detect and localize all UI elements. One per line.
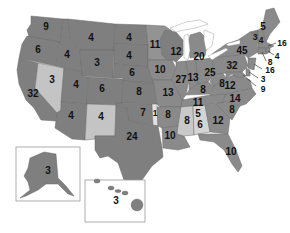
label-tx: 24 xyxy=(126,131,138,142)
label-ga: 12 xyxy=(212,115,224,126)
label-md: 9 xyxy=(261,84,266,94)
label-mn: 11 xyxy=(150,39,161,50)
leader-nj xyxy=(254,64,262,69)
label-in: 13 xyxy=(187,72,199,83)
label-mo: 13 xyxy=(162,87,174,98)
us-electoral-map: 9 6 32 3 4 4 3 4 4 6 4 4 4 6 8 7 1 24 11… xyxy=(0,0,290,233)
state-new-jersey[interactable] xyxy=(248,58,256,70)
label-wa: 9 xyxy=(43,21,49,32)
label-wv: 8 xyxy=(219,78,225,89)
label-me: 5 xyxy=(260,21,266,32)
label-ks: 8 xyxy=(136,86,142,97)
label-ca: 32 xyxy=(27,88,39,99)
label-wi: 12 xyxy=(170,46,182,57)
label-ia: 10 xyxy=(154,64,166,75)
leader-de xyxy=(249,72,258,78)
label-vt: 3 xyxy=(253,32,258,42)
label-ne: 6 xyxy=(129,67,135,78)
label-pa: 32 xyxy=(226,60,238,71)
label-ar: 8 xyxy=(165,109,171,120)
label-ri: 4 xyxy=(275,51,280,61)
label-wy: 3 xyxy=(94,57,100,68)
lake-michigan xyxy=(184,34,190,60)
label-mt: 4 xyxy=(88,32,94,43)
label-va: 12 xyxy=(224,80,236,91)
label-ok-strip: 1 xyxy=(153,108,158,118)
label-ny: 45 xyxy=(236,45,248,56)
label-il: 27 xyxy=(175,74,187,85)
lake-huron xyxy=(204,30,214,50)
label-oh: 25 xyxy=(204,67,216,78)
label-ut: 4 xyxy=(73,79,79,90)
label-mi: 20 xyxy=(193,51,205,62)
label-sd: 4 xyxy=(126,50,132,61)
label-ms: 8 xyxy=(184,115,190,126)
state-connecticut[interactable] xyxy=(258,48,266,54)
label-sc: 8 xyxy=(229,104,235,115)
label-nc: 14 xyxy=(229,93,241,104)
label-co: 6 xyxy=(99,83,105,94)
label-la: 10 xyxy=(164,130,176,141)
label-id: 4 xyxy=(64,49,70,60)
label-fl: 10 xyxy=(225,146,237,157)
lake-superior xyxy=(170,20,208,32)
leader-ri xyxy=(268,51,274,55)
label-nh: 4 xyxy=(259,35,264,45)
label-al: 6 xyxy=(197,119,203,130)
label-ky: 8 xyxy=(200,84,206,95)
label-de: 3 xyxy=(261,74,266,84)
label-ak: 3 xyxy=(45,165,51,176)
label-ok: 7 xyxy=(140,107,146,118)
label-tn: 11 xyxy=(193,97,204,108)
label-nv: 3 xyxy=(49,74,55,85)
label-hi: 3 xyxy=(113,195,119,206)
label-ma: 16 xyxy=(277,38,287,48)
label-az: 4 xyxy=(68,110,74,121)
state-new-mexico[interactable] xyxy=(85,104,116,140)
label-nd: 4 xyxy=(126,32,132,43)
label-or: 6 xyxy=(35,44,41,55)
label-al-top: 5 xyxy=(195,108,201,119)
label-nj: 16 xyxy=(265,65,275,75)
state-colorado[interactable] xyxy=(87,77,123,105)
label-nm: 4 xyxy=(98,111,104,122)
